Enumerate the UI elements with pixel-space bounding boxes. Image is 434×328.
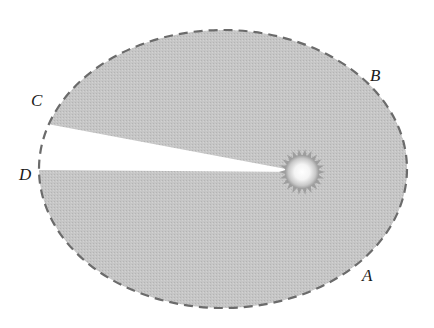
point-label-b: B <box>370 66 381 85</box>
orbit-diagram: A B C D <box>0 0 434 328</box>
point-label-a: A <box>361 266 373 285</box>
point-label-d: D <box>18 165 32 184</box>
point-label-c: C <box>31 91 43 110</box>
swept-area-sector-cd <box>39 30 407 308</box>
